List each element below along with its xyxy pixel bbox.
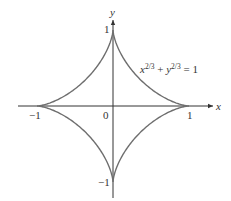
astroid-diagram: x y 0 −1 1 1 −1 x2/3 + y2/3 = 1: [0, 0, 231, 201]
origin-label: 0: [103, 109, 109, 121]
x-tick-1: 1: [187, 109, 193, 121]
y-tick-neg1: −1: [98, 176, 110, 188]
equation-label: x2/3 + y2/3 = 1: [139, 62, 198, 75]
x-axis-label: x: [215, 100, 221, 112]
x-tick-neg1: −1: [29, 109, 41, 121]
y-axis-label: y: [109, 6, 115, 18]
y-tick-1: 1: [104, 23, 110, 35]
